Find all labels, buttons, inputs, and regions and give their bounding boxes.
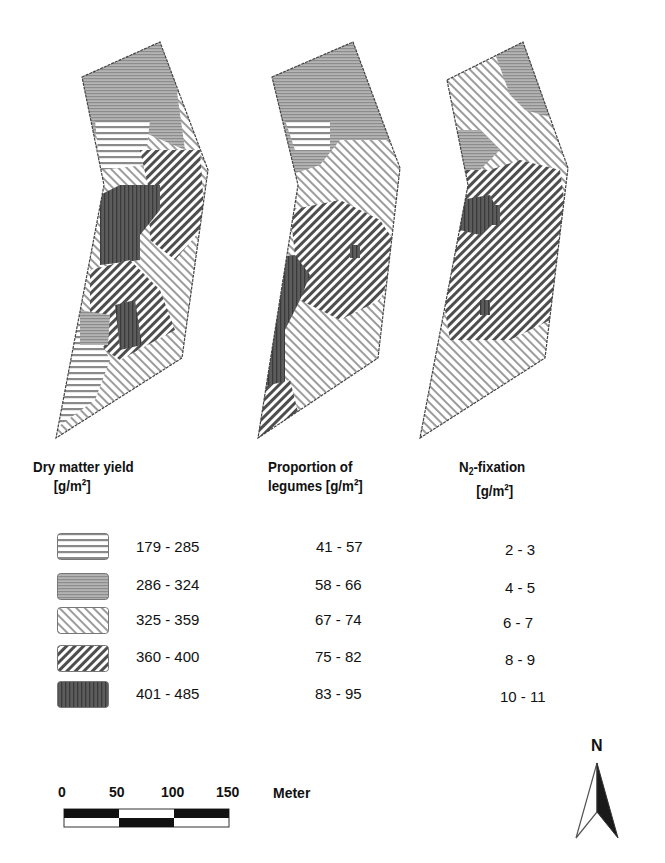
dry-matter-yield-title: Dry matter yield [g/m²]: [33, 457, 134, 495]
legend-legumes-2: 58 - 66: [315, 576, 362, 593]
legume-proportion-title: Proportion of legumes [g/m²]: [268, 457, 363, 495]
legume-proportion-map: [240, 30, 420, 450]
legend-legumes-1: 41 - 57: [316, 538, 363, 555]
legend-legumes-5: 83 - 95: [315, 685, 362, 702]
scale-tick-50: 50: [109, 784, 125, 800]
legend-n2-4: 8 - 9: [505, 651, 535, 668]
legend-n2-1: 2 - 3: [505, 541, 535, 558]
legend-dry-matter-3: 325 - 359: [136, 611, 199, 628]
n2-fixation-map: [410, 30, 590, 450]
legend-swatch-class-4: [57, 645, 109, 672]
legend-legumes-4: 75 - 82: [315, 648, 362, 665]
scale-unit: Meter: [273, 785, 310, 801]
legend-swatch-class-5: [57, 681, 109, 708]
scale-tick-0: 0: [58, 784, 66, 800]
legend-swatch-class-1: [57, 533, 109, 560]
north-arrow-icon: [576, 763, 618, 838]
legend-dry-matter-4: 360 - 400: [136, 648, 199, 665]
legend-legumes-3: 67 - 74: [315, 611, 362, 628]
north-label: N: [591, 737, 603, 755]
legend-swatch-class-2: [57, 573, 109, 600]
n2-fixation-title: N2-fixation [g/m²]: [459, 457, 525, 500]
map-canvas: [0, 0, 665, 863]
legend-dry-matter-1: 179 - 285: [136, 538, 199, 555]
legend-n2-3: 6 - 7: [503, 614, 533, 631]
legend-n2-5: 10 - 11: [500, 688, 546, 705]
legend-dry-matter-2: 286 - 324: [136, 576, 199, 593]
scale-tick-100: 100: [161, 784, 184, 800]
scale-tick-150: 150: [216, 784, 239, 800]
legend-swatch-class-3: [57, 607, 109, 634]
legend-n2-2: 4 - 5: [505, 579, 535, 596]
dry-matter-yield-map: [40, 30, 220, 450]
scale-bar: [64, 809, 229, 827]
legend-dry-matter-5: 401 - 485: [136, 685, 199, 702]
